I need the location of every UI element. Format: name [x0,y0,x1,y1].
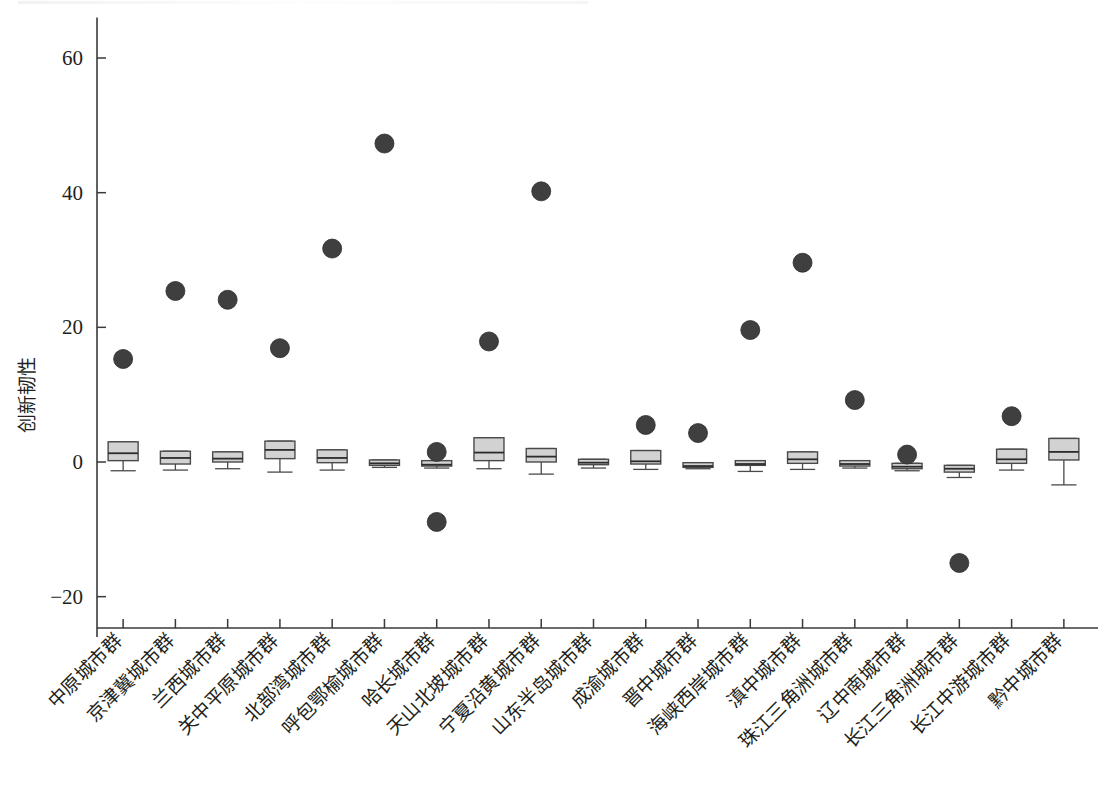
box-plot-item [265,441,295,472]
outlier-marker [375,134,394,153]
box-plot-item [683,463,713,469]
outlier-marker [898,445,917,464]
y-tick-label: 20 [62,315,83,339]
box-plot-item [997,449,1027,470]
box-plot-item [213,452,243,469]
outlier-marker [427,442,446,461]
box-plot-item [579,459,609,468]
outlier-marker [114,349,133,368]
outlier-marker [532,182,551,201]
outlier-marker [741,321,760,340]
box-plot-item [317,450,347,470]
y-tick-label: 40 [62,181,83,205]
box-iqr [474,438,504,461]
box-plot-item [108,442,138,471]
box-plot-item [1049,438,1079,484]
x-labels-group: 中原城市群京津冀城市群兰西城市群关中平原城市群北部湾城市群呼包鄂榆城市群哈长城市… [43,619,1066,752]
box-plot-item [160,451,190,470]
outlier-marker [636,415,655,434]
boxplot-figure: −200204060创新韧性中原城市群京津冀城市群兰西城市群关中平原城市群北部湾… [0,0,1105,796]
box-iqr [108,442,138,461]
box-plot-item [631,451,661,470]
box-iqr [997,449,1027,463]
outlier-marker [845,391,864,410]
outlier-marker [950,553,969,572]
outlier-marker [218,290,237,309]
outlier-marker [793,253,812,272]
box-plot-item [735,461,765,472]
outliers-group [114,134,1021,572]
box-plot-item [788,452,818,470]
box-plot-item [840,461,870,468]
box-iqr [1049,438,1079,460]
y-tick-label: −20 [50,585,83,609]
box-iqr [788,452,818,463]
box-plot-item [369,460,399,467]
outlier-marker [1002,407,1021,426]
box-plot-item [526,449,556,475]
y-tick-label: 60 [62,46,83,70]
outlier-marker [166,281,185,300]
y-axis-title: 创新韧性 [16,357,38,433]
scan-artifact [18,1,588,4]
box-iqr [213,452,243,462]
plot-canvas: −200204060创新韧性中原城市群京津冀城市群兰西城市群关中平原城市群北部湾… [0,0,1105,796]
box-iqr [526,449,556,462]
boxes-group [108,438,1079,485]
outlier-marker [427,512,446,531]
y-tick-label: 0 [73,450,84,474]
outlier-marker [689,424,708,443]
box-iqr [317,450,347,463]
box-plot-item [944,465,974,477]
outlier-marker [323,239,342,258]
box-plot-item [474,438,504,469]
outlier-marker [479,332,498,351]
outlier-marker [270,339,289,358]
